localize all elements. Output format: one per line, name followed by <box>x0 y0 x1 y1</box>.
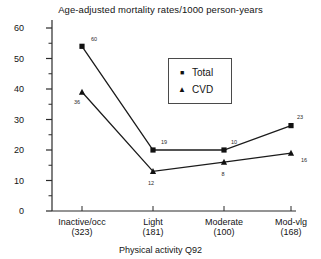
data-point-value-label: 36 <box>74 99 80 105</box>
data-point-value-label: 12 <box>148 180 154 186</box>
y-axis-tick-label: 20 <box>0 145 24 155</box>
data-point-marker-triangle <box>79 89 85 95</box>
y-axis-tick-label: 50 <box>0 54 24 64</box>
data-point-value-label: 16 <box>301 157 307 163</box>
data-point-marker-square <box>221 147 226 152</box>
x-tick-category-count: (323) <box>58 227 106 237</box>
y-axis-tick-label: 30 <box>0 115 24 125</box>
x-tick-category-count: (168) <box>275 227 307 237</box>
y-axis-tick-label: 0 <box>0 206 24 216</box>
x-axis-tick-label: Mod-vlg(168) <box>275 217 307 238</box>
x-tick-category-name: Mod-vlg <box>275 217 307 227</box>
legend-item-total: ■Total <box>175 64 221 81</box>
x-tick-category-count: (100) <box>205 227 243 237</box>
data-point-value-label: 23 <box>297 114 303 120</box>
data-point-value-label: 8 <box>221 171 224 177</box>
data-point-value-label: 60 <box>91 36 97 42</box>
data-point-value-label: 10 <box>231 139 237 145</box>
x-tick-category-name: Light <box>142 217 163 227</box>
mortality-rate-line-chart: Age-adjusted mortality rates/1000 person… <box>0 0 321 259</box>
x-tick-category-name: Inactive/occ <box>58 217 106 227</box>
x-tick-category-count: (181) <box>142 227 163 237</box>
y-axis-tick-label: 10 <box>0 176 24 186</box>
triangle-marker-icon: ▲ <box>175 86 189 94</box>
data-point-marker-square <box>288 123 293 128</box>
data-point-value-label: 19 <box>161 139 167 145</box>
legend-item-cvd: ▲CVD <box>175 81 221 98</box>
y-axis-tick-label: 60 <box>0 23 24 33</box>
x-axis-title: Physical activity Q92 <box>0 245 321 255</box>
square-marker-icon: ■ <box>175 69 189 76</box>
x-axis-tick-label: Inactive/occ(323) <box>58 217 106 238</box>
legend-item-label: Total <box>192 67 213 78</box>
legend-item-label: CVD <box>192 84 213 95</box>
data-point-marker-square <box>150 147 155 152</box>
x-axis-tick-label: Light(181) <box>142 217 163 238</box>
y-axis-tick-label: 40 <box>0 84 24 94</box>
x-axis-tick-label: Moderate(100) <box>205 217 243 238</box>
data-point-marker-square <box>79 44 84 49</box>
chart-legend: ■Total▲CVD <box>168 58 232 104</box>
data-point-marker-triangle <box>288 150 294 156</box>
x-tick-category-name: Moderate <box>205 217 243 227</box>
